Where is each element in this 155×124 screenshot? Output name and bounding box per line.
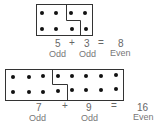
bottom-addend-b: 9 xyxy=(86,103,92,113)
dot-diagrams xyxy=(0,0,155,124)
bottom-dot-box xyxy=(6,70,124,101)
bottom-label-a: Odd xyxy=(29,114,46,123)
top-label-sum: Even xyxy=(110,49,131,58)
top-label-b: Odd xyxy=(79,50,96,59)
top-addend-a: 5 xyxy=(55,39,61,49)
bottom-label-b: Odd xyxy=(81,114,98,123)
bottom-dots xyxy=(11,73,118,94)
top-plus: + xyxy=(69,38,75,48)
bottom-plus: + xyxy=(62,101,68,111)
top-label-a: Odd xyxy=(49,50,66,59)
top-addend-b: 3 xyxy=(84,39,90,49)
top-dot-box xyxy=(37,5,93,36)
top-equals: = xyxy=(98,38,104,48)
bottom-addend-a: 7 xyxy=(36,103,42,113)
bottom-equals: = xyxy=(111,101,117,111)
bottom-label-sum: Even xyxy=(133,113,154,122)
